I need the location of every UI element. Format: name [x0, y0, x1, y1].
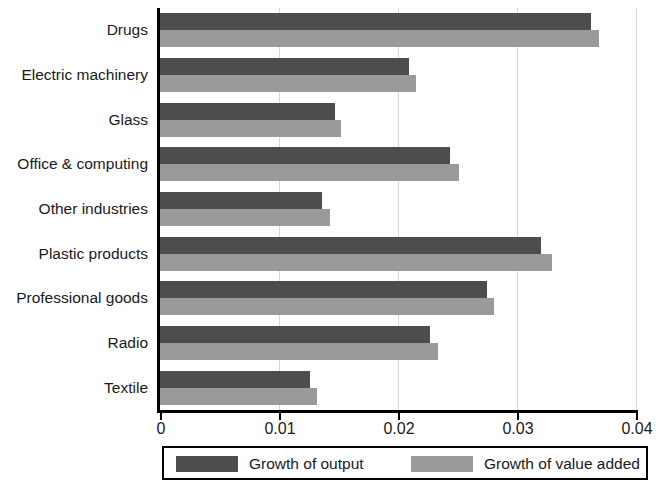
bar-electric-machinery-output	[160, 58, 409, 75]
category-label-glass: Glass	[0, 112, 148, 128]
category-axis-labels: DrugsElectric machineryGlassOffice & com…	[0, 8, 154, 410]
bar-glass-value-added	[160, 120, 341, 137]
bar-textile-output	[160, 371, 310, 388]
gridline	[636, 8, 637, 410]
legend-swatch-growth-of-value-added	[411, 456, 473, 472]
bar-office-computing-output	[160, 147, 450, 164]
bar-chart: DrugsElectric machineryGlassOffice & com…	[0, 0, 656, 485]
legend-label-growth-of-output: Growth of output	[249, 456, 364, 472]
bar-drugs-value-added	[160, 30, 599, 47]
bar-drugs-output	[160, 13, 591, 30]
category-label-other-industries: Other industries	[0, 201, 148, 217]
x-axis-tick	[398, 413, 400, 420]
bar-other-industries-value-added	[160, 209, 330, 226]
x-axis-tick-label: 0.03	[502, 420, 533, 438]
x-axis-tick	[160, 413, 162, 420]
bar-glass-output	[160, 103, 335, 120]
bar-other-industries-output	[160, 192, 322, 209]
category-label-radio: Radio	[0, 335, 148, 351]
bar-radio-output	[160, 326, 430, 343]
legend-item-growth-of-output: Growth of output	[176, 455, 364, 473]
bar-office-computing-value-added	[160, 164, 459, 181]
chart-legend: Growth of output Growth of value added	[162, 446, 648, 480]
bar-plastic-products-value-added	[160, 254, 552, 271]
x-axis-tick-label: 0.04	[621, 420, 652, 438]
category-label-office-computing: Office & computing	[0, 156, 148, 172]
x-axis-tick	[279, 413, 281, 420]
category-label-plastic-products: Plastic products	[0, 246, 148, 262]
x-axis-tick-label: 0.02	[383, 420, 414, 438]
x-axis-tick	[517, 413, 519, 420]
x-axis-tick-label: 0	[157, 420, 166, 438]
legend-label-growth-of-value-added: Growth of value added	[484, 456, 640, 472]
plot-area	[160, 8, 656, 410]
bar-professional-goods-value-added	[160, 298, 494, 315]
legend-swatch-growth-of-output	[176, 456, 238, 472]
x-axis-tick	[636, 413, 638, 420]
bar-plastic-products-output	[160, 237, 541, 254]
gridline	[517, 8, 518, 410]
category-label-professional-goods: Professional goods	[0, 290, 148, 306]
category-label-electric-machinery: Electric machinery	[0, 67, 148, 83]
x-axis-tick-label: 0.01	[264, 420, 295, 438]
bar-textile-value-added	[160, 388, 317, 405]
bar-professional-goods-output	[160, 281, 487, 298]
category-label-textile: Textile	[0, 380, 148, 396]
bar-radio-value-added	[160, 343, 438, 360]
category-label-drugs: Drugs	[0, 22, 148, 38]
bar-electric-machinery-value-added	[160, 75, 416, 92]
legend-item-growth-of-value-added: Growth of value added	[411, 455, 640, 473]
